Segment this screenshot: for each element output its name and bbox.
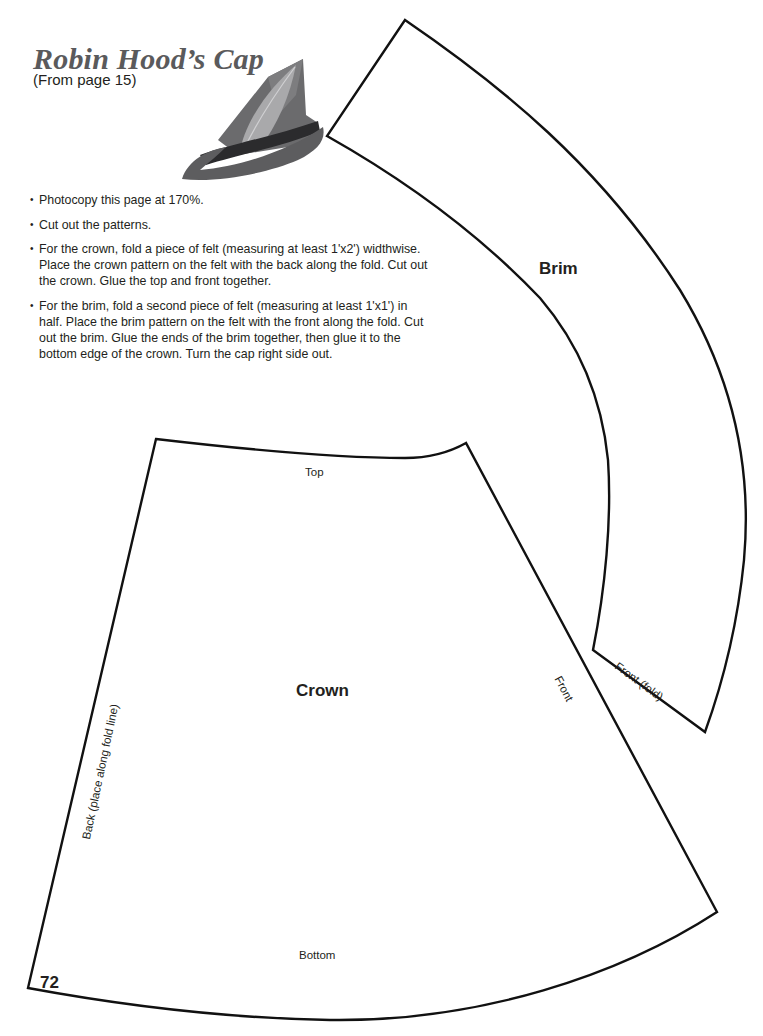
brim-label: Brim — [539, 259, 578, 279]
crown-bottom-label: Bottom — [299, 949, 335, 961]
brim-outline — [327, 20, 746, 732]
crown-outline — [28, 439, 717, 1020]
page-number: 72 — [40, 973, 59, 993]
crown-top-label: Top — [305, 466, 324, 478]
crown-label: Crown — [296, 681, 349, 701]
pattern-page: Robin Hood’s Cap (From page 15) Photocop… — [0, 0, 763, 1036]
pattern-outlines — [0, 0, 763, 1036]
